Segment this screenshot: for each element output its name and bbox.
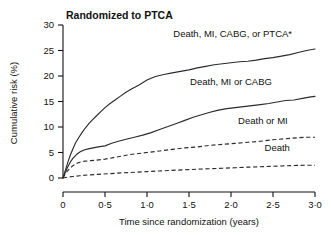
curve-label-1: Death, MI or CABG (190, 76, 272, 87)
curve-label-2: Death or MI (238, 115, 288, 126)
y-axis-ticks: 051015202530 (43, 19, 63, 183)
curve-0 (63, 49, 315, 178)
x-tick-label: 2·0 (224, 199, 238, 210)
y-tick-label: 0 (49, 172, 54, 183)
chart-figure: Randomized to PTCA Cumulative risk (%) T… (0, 0, 331, 235)
y-tick-label: 25 (43, 45, 54, 56)
x-axis-ticks: 00·51·01·52·02·53·0 (60, 192, 322, 210)
y-tick-label: 5 (49, 147, 54, 158)
cumulative-risk-chart: Randomized to PTCA Cumulative risk (%) T… (0, 0, 331, 235)
y-tick-label: 15 (43, 96, 54, 107)
x-axis-label: Time since randomization (years) (119, 216, 259, 227)
y-tick-label: 20 (43, 70, 54, 81)
curve-label-0: Death, MI, CABG, or PTCA* (173, 28, 292, 39)
curve-labels: Death, MI, CABG, or PTCA*Death, MI or CA… (173, 28, 292, 153)
y-tick-label: 10 (43, 121, 54, 132)
x-tick-label: 0 (60, 199, 65, 210)
y-tick-label: 30 (43, 19, 54, 30)
chart-title: Randomized to PTCA (66, 9, 173, 21)
x-tick-label: 3·0 (308, 199, 322, 210)
x-tick-label: 1·5 (182, 199, 196, 210)
curve-3 (63, 165, 315, 178)
x-tick-label: 0·5 (98, 199, 112, 210)
curve-label-3: Death (265, 142, 290, 153)
y-axis-label: Cumulative risk (%) (8, 62, 19, 144)
x-tick-label: 1·0 (140, 199, 154, 210)
x-tick-label: 2·5 (266, 199, 280, 210)
data-curves (63, 49, 315, 178)
